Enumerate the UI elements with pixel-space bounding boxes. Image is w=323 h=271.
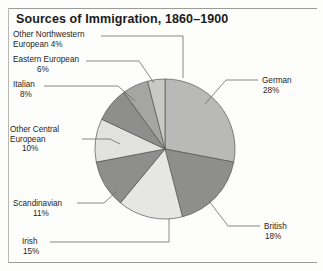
pie-label-other-central-european-line1: Other Central bbox=[10, 125, 59, 134]
pie-value-german: 28% bbox=[263, 86, 292, 96]
pie-label-italian: Italian 8% bbox=[13, 80, 35, 99]
pie-value-other-northwestern-european: 4% bbox=[51, 40, 63, 49]
pie-label-british: British 18% bbox=[264, 222, 287, 241]
pie-slices bbox=[95, 79, 235, 219]
pie-value-irish: 15% bbox=[23, 247, 39, 257]
pie-label-other-central-european-line2: European bbox=[10, 135, 46, 144]
pie-value-eastern-european: 6% bbox=[37, 65, 79, 75]
leader-line-eastern-european bbox=[86, 61, 154, 83]
pie-label-british-line1: British bbox=[264, 222, 287, 231]
leader-line-irish bbox=[50, 219, 169, 242]
pie-label-scandinavian-line1: Scandinavian bbox=[13, 199, 62, 208]
pie-label-irish: Irish 15% bbox=[22, 237, 39, 256]
leader-line-other-northwestern-european bbox=[101, 36, 183, 78]
pie-label-other-northwestern-european: Other Northwestern European 4% bbox=[13, 30, 84, 49]
pie-label-eastern-european-line1: Eastern European bbox=[13, 55, 79, 64]
pie-label-other-northwestern-european-line2: European bbox=[13, 40, 49, 49]
pie-label-eastern-european: Eastern European 6% bbox=[13, 55, 79, 74]
pie-label-scandinavian: Scandinavian 11% bbox=[13, 199, 62, 218]
leader-line-british bbox=[209, 201, 260, 226]
pie-slice-german[interactable] bbox=[165, 79, 235, 162]
pie-label-other-central-european: Other Central European 10% bbox=[10, 125, 59, 154]
pie-label-german-line1: German bbox=[262, 76, 292, 85]
pie-label-german: German 28% bbox=[262, 76, 292, 95]
pie-label-irish-line1: Irish bbox=[22, 237, 37, 246]
pie-label-other-northwestern-european-line1: Other Northwestern bbox=[13, 30, 84, 39]
pie-value-italian: 8% bbox=[20, 90, 35, 100]
pie-value-british: 18% bbox=[265, 232, 287, 242]
chart-figure: Sources of Immigration, 1860–1900 Other … bbox=[0, 0, 323, 271]
pie-label-italian-line1: Italian bbox=[13, 80, 35, 89]
pie-value-other-central-european: 10% bbox=[22, 144, 59, 154]
pie-value-scandinavian: 11% bbox=[33, 209, 62, 219]
